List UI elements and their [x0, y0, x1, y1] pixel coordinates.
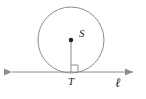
- center-point-label: S: [79, 27, 85, 39]
- center-point-dot: [69, 38, 73, 42]
- geometry-canvas: S T ℓ: [0, 0, 146, 99]
- geometry-figure: S T ℓ: [0, 0, 146, 99]
- right-angle-marker: [71, 65, 78, 72]
- tangent-line-label: ℓ: [115, 75, 121, 90]
- tangent-point-label: T: [68, 75, 75, 87]
